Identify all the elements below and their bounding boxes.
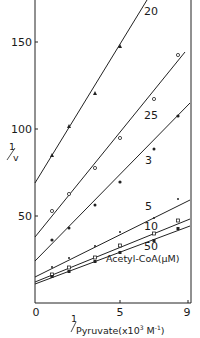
series-label-50: 50 xyxy=(144,240,158,253)
line-5 xyxy=(35,200,190,277)
y-tick-100: 100 xyxy=(11,123,32,136)
series-lines xyxy=(35,0,190,284)
series-label-3: 3 xyxy=(145,154,152,167)
line-10 xyxy=(35,219,190,282)
legend-title: Acetyl-CoA(μM) xyxy=(106,253,179,264)
line-25 xyxy=(35,52,185,237)
series-label-5: 5 xyxy=(145,200,152,213)
series-label-10: 10 xyxy=(144,220,158,233)
series-label-25: 25 xyxy=(144,109,158,122)
y-tick-50: 50 xyxy=(18,210,32,223)
y-axis-title: 1 v xyxy=(7,141,19,163)
series-label-20: 20 xyxy=(144,5,158,18)
svg-text:Pyruvate(x103 M-1): Pyruvate(x103 M-1) xyxy=(76,324,164,336)
line-3 xyxy=(35,103,190,261)
lineweaver-burk-plot: 150 100 50 0 5 9 1 v 1 Pyruvate(x103 M-1… xyxy=(0,0,200,338)
svg-text:v: v xyxy=(13,152,19,163)
x-tick-0: 0 xyxy=(33,306,40,319)
y-tick-150: 150 xyxy=(11,36,32,49)
svg-text:1: 1 xyxy=(9,141,15,152)
x-tick-9: 9 xyxy=(184,306,191,319)
x-tick-5: 5 xyxy=(117,306,124,319)
